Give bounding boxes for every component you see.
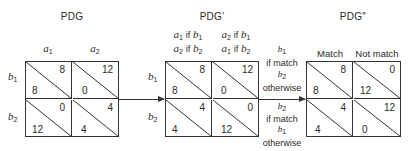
payoff-lower: 4 [172,124,178,135]
payoff-upper: 0 [59,102,65,113]
col-match-label: Match [317,48,343,59]
pdg-prime-row-b2: b2 [148,110,157,123]
lower-b2-label: b2 [278,101,286,112]
transform-arrow-2 [259,99,305,100]
pdg-prime-cell-r1c2: 12 0 [213,62,259,99]
pdg-cell-b1-a2: 12 0 [73,62,119,99]
lower-if-match-label: if match [266,114,298,124]
payoff-upper: 4 [199,102,205,113]
upper-b1-label: b1 [278,44,286,55]
pdg-dp-cell-r2-match: 4 4 [307,100,353,137]
payoff-upper: 12 [102,64,113,75]
transform-arrow-1 [119,99,164,100]
payoff-lower: 8 [172,85,178,96]
pdg-dp-cell-r1-not-match: 0 12 [354,62,401,99]
pdg-prime-col1-line2: a2 if b2 [174,42,203,55]
pdg-cell-b2-a1: 0 12 [26,100,72,137]
lower-otherwise-label: otherwise [263,138,302,148]
upper-otherwise-label: otherwise [263,83,302,93]
payoff-upper: 0 [247,102,253,113]
payoff-upper: 12 [242,64,253,75]
pdg-double-prime-grid: 8 8 0 12 4 4 12 0 [306,61,401,137]
pdg-cell-b1-a1: 8 8 [26,62,72,99]
payoff-lower: 8 [313,85,319,96]
payoff-upper: 4 [340,102,346,113]
payoff-upper: 4 [107,102,113,113]
payoff-lower: 12 [221,124,232,135]
pdg-title: PDG [61,11,84,22]
diagonal-line-icon [307,100,353,137]
payoff-lower: 12 [360,85,371,96]
pdg-col-a1: a1 [43,42,52,55]
pdg-prime-cell-r2c2: 0 12 [213,100,259,137]
pdg-col-a2: a2 [90,42,99,55]
pdg-prime-cell-r1c1: 8 8 [166,62,212,99]
upper-if-match-label: if match [266,58,298,68]
pdg-prime-title: PDG′ [200,11,225,22]
pdg-dp-cell-r1-match: 8 8 [307,62,353,99]
payoff-lower: 4 [81,124,87,135]
pdg-dp-cell-r2-not-match: 12 0 [354,100,401,137]
payoff-lower: 0 [362,124,368,135]
pdg-double-prime-title: PDG″ [340,11,366,22]
upper-b2-label: b2 [278,69,286,80]
pdg-prime-col2-line2: a1 if b2 [222,42,251,55]
payoff-upper: 8 [199,64,205,75]
pdg-prime-grid: 8 8 12 0 4 4 0 12 [165,61,259,137]
col-not-match-label: Not match [355,48,398,59]
payoff-lower: 0 [221,85,227,96]
payoff-lower: 8 [32,85,38,96]
pdg-prime-cell-r2c1: 4 4 [166,100,212,137]
pdg-cell-b2-a2: 4 4 [73,100,119,137]
payoff-lower: 4 [315,124,321,135]
lower-b1-label: b1 [278,124,286,135]
payoff-upper: 12 [384,102,395,113]
pdg-row-b2: b2 [8,110,17,123]
pdg-prime-col1-line1: a1 if b1 [174,28,203,41]
payoff-lower: 0 [82,85,88,96]
pdg-prime-row-b1: b1 [148,70,157,83]
pdg-prime-col2-line1: a2 if b1 [222,28,251,41]
payoff-upper: 8 [340,64,346,75]
payoff-upper: 0 [389,64,395,75]
pdg-row-b1: b1 [8,70,17,83]
payoff-upper: 8 [59,64,65,75]
payoff-lower: 12 [32,124,43,135]
pdg-grid: 8 8 12 0 0 12 4 4 [25,61,119,137]
